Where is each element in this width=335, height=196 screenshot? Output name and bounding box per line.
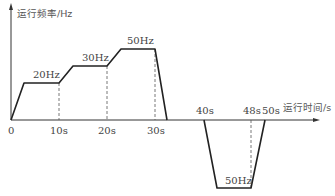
y-axis-arrow-icon (9, 3, 13, 10)
x-tick-48s: 48s (243, 105, 261, 116)
origin-label: 0 (8, 125, 14, 136)
level-20hz-label: 20Hz (33, 69, 60, 80)
x-tick-10s: 10s (50, 125, 68, 136)
y-axis-title: 运行频率/Hz (17, 8, 72, 19)
x-tick-20s: 20s (98, 125, 116, 136)
level-30hz-label: 30Hz (82, 52, 109, 63)
level-50hz-label: 50Hz (127, 35, 154, 46)
frequency-time-diagram: 运行频率/Hz 运行时间/s 0 10s 20s 30s 40s 48s 50s… (0, 0, 335, 196)
x-axis-title: 运行时间/s (283, 102, 331, 113)
x-tick-30s: 30s (147, 125, 165, 136)
x-axis-arrow-icon (313, 118, 320, 122)
x-tick-40s: 40s (196, 105, 214, 116)
x-tick-50s: 50s (262, 105, 280, 116)
level-reverse-50hz-label: 50Hz (225, 175, 252, 186)
dashed-guides (59, 49, 251, 188)
